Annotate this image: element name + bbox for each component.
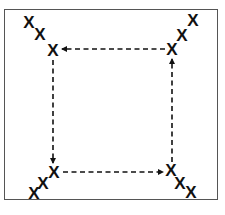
cluster-top-left: XXX: [23, 13, 59, 60]
x-mark: X: [34, 25, 46, 44]
dashed-arrows: [53, 49, 172, 172]
cluster-bottom-left: XXX: [28, 163, 60, 203]
x-mark-clusters: XXXXXXXXXXXX: [23, 11, 199, 203]
x-mark: X: [48, 163, 60, 182]
x-mark: X: [176, 26, 188, 45]
cluster-bottom-right: XXX: [165, 161, 197, 202]
cycle-diagram: XXXXXXXXXXXX: [0, 0, 225, 215]
x-mark: X: [187, 11, 199, 30]
x-mark: X: [185, 183, 197, 202]
cluster-top-right: XXX: [166, 11, 199, 59]
x-mark: X: [47, 41, 59, 60]
x-mark: X: [166, 40, 178, 59]
x-mark: X: [28, 184, 40, 203]
